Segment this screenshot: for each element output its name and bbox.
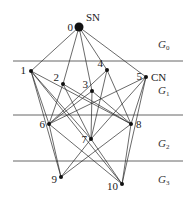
edge-4-8: [107, 70, 131, 124]
node-label: 2: [54, 71, 60, 83]
node-label: 9: [52, 173, 58, 185]
node-dot: [129, 122, 133, 126]
group-label-g3: G3: [158, 173, 170, 187]
layered-network-diagram: 0SN12345CN678910 G0G1G2G3: [0, 0, 192, 202]
node-dot: [89, 137, 93, 141]
node-1: 1: [21, 64, 34, 76]
edge-0-1: [31, 27, 79, 71]
node-label: 8: [136, 118, 142, 130]
group-label-g2: G2: [158, 137, 170, 151]
edge-4-7: [91, 70, 107, 139]
edge-0-2: [63, 27, 79, 84]
node-dot: [144, 75, 148, 79]
node-label: 3: [83, 78, 89, 90]
edge-3-8: [92, 91, 131, 124]
node-8: 8: [129, 118, 142, 130]
group-labels: G0G1G2G3: [158, 38, 170, 187]
node-dot: [29, 69, 33, 73]
node-dot: [120, 182, 124, 186]
node-label: 1: [21, 64, 27, 76]
group-label-g0: G0: [158, 38, 170, 52]
node-dot: [75, 23, 84, 32]
node-label: 0: [68, 21, 74, 33]
edge-8-10: [122, 124, 131, 184]
node-label: 10: [107, 180, 119, 192]
node-label: 6: [40, 118, 46, 130]
edge-3-6: [49, 91, 92, 124]
node-dot: [105, 68, 109, 72]
edges: [31, 27, 146, 184]
edge-7-10: [91, 139, 122, 184]
node-dot: [90, 89, 94, 93]
edge-5-8: [131, 77, 146, 124]
edge-8-9: [61, 124, 131, 177]
node-10: 10: [107, 180, 124, 192]
node-0: 0SN: [68, 11, 101, 33]
source-node-tag: SN: [86, 11, 100, 23]
edge-5-10: [122, 77, 146, 184]
node-label: 7: [82, 133, 88, 145]
node-dot: [59, 175, 63, 179]
node-9: 9: [52, 173, 64, 185]
control-node-tag: CN: [151, 71, 166, 83]
node-6: 6: [40, 118, 52, 130]
node-label: 5: [137, 70, 143, 82]
group-label-g1: G1: [158, 84, 170, 98]
node-label: 4: [98, 57, 104, 69]
node-dot: [61, 82, 65, 86]
node-5: 5CN: [137, 70, 167, 83]
edge-3-7: [91, 91, 92, 139]
node-dot: [47, 122, 51, 126]
